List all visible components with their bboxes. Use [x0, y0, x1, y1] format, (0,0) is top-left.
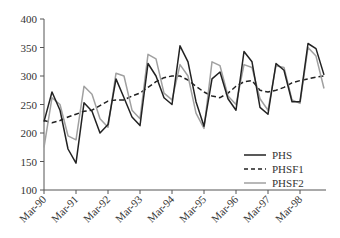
legend-label-phsf2: PHSF2	[272, 177, 304, 189]
x-tick-label: Mar-93	[113, 193, 145, 225]
x-tick-label: Mar-91	[49, 193, 81, 225]
x-tick-label: Mar-92	[81, 193, 113, 225]
y-tick-label: 250	[21, 99, 38, 111]
x-tick-label: Mar-95	[177, 193, 209, 225]
x-tick-label: Mar-98	[273, 193, 305, 225]
x-tick-label: Mar-94	[145, 193, 177, 225]
series-phs	[44, 44, 324, 164]
y-tick-label: 400	[21, 13, 38, 25]
series-layer	[44, 44, 324, 164]
legend-label-phs: PHS	[272, 149, 292, 161]
y-tick-label: 150	[21, 156, 38, 168]
series-phsf2	[44, 48, 324, 148]
x-tick-label: Mar-96	[209, 193, 241, 225]
legend: PHS PHSF1 PHSF2	[244, 149, 304, 189]
line-chart: 100150200250300350400 Mar-90Mar-91Mar-92…	[0, 0, 340, 238]
x-tick-label: Mar-90	[17, 193, 49, 225]
y-tick-label: 350	[21, 42, 38, 54]
series-phsf1	[44, 76, 324, 123]
x-tick-label: Mar-97	[241, 193, 273, 225]
x-axis: Mar-90Mar-91Mar-92Mar-93Mar-94Mar-95Mar-…	[17, 190, 326, 225]
y-tick-label: 300	[21, 70, 38, 82]
y-tick-label: 100	[21, 184, 38, 196]
y-tick-label: 200	[21, 127, 38, 139]
legend-label-phsf1: PHSF1	[272, 163, 304, 175]
y-axis: 100150200250300350400	[21, 13, 45, 196]
